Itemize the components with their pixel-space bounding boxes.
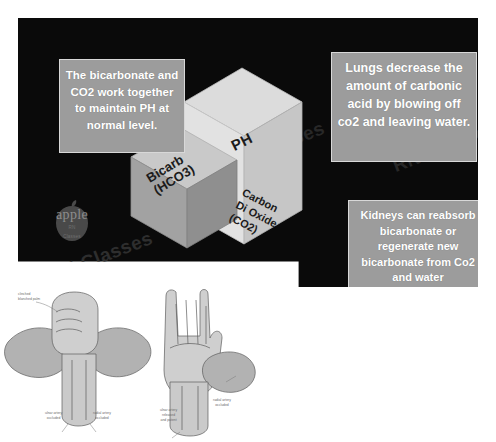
clenched-fist bbox=[52, 292, 98, 356]
callout-kidneys: Kidneys can reabsorb bicarbonate or rege… bbox=[348, 200, 478, 287]
right-hand-group bbox=[164, 290, 255, 439]
radial-leader-line-left bbox=[90, 424, 96, 432]
apple-logo-watermark: apple RN Classes bbox=[48, 199, 96, 245]
right-forearm bbox=[170, 382, 208, 436]
left-hand-group bbox=[5, 292, 151, 432]
apple-sub-line1: RN bbox=[68, 225, 75, 231]
apple-sub-line2: Classes bbox=[63, 234, 81, 240]
allen-test-drawing bbox=[0, 286, 260, 442]
ulnar-leader-line-left bbox=[62, 424, 68, 432]
apple-wordmark: apple bbox=[56, 208, 88, 222]
allen-test-illustration bbox=[0, 286, 260, 442]
left-forearm bbox=[62, 354, 96, 426]
slide-panel: RN Classes RN Classes RN Classes RN Clas… bbox=[18, 18, 478, 287]
callout-bicarbonate-co2: The bicarbonate and CO2 work together to… bbox=[59, 59, 185, 153]
callout-lungs: Lungs decrease the amount of carbonic ac… bbox=[331, 52, 477, 162]
slide-page: RN Classes RN Classes RN Classes RN Clas… bbox=[0, 0, 496, 442]
